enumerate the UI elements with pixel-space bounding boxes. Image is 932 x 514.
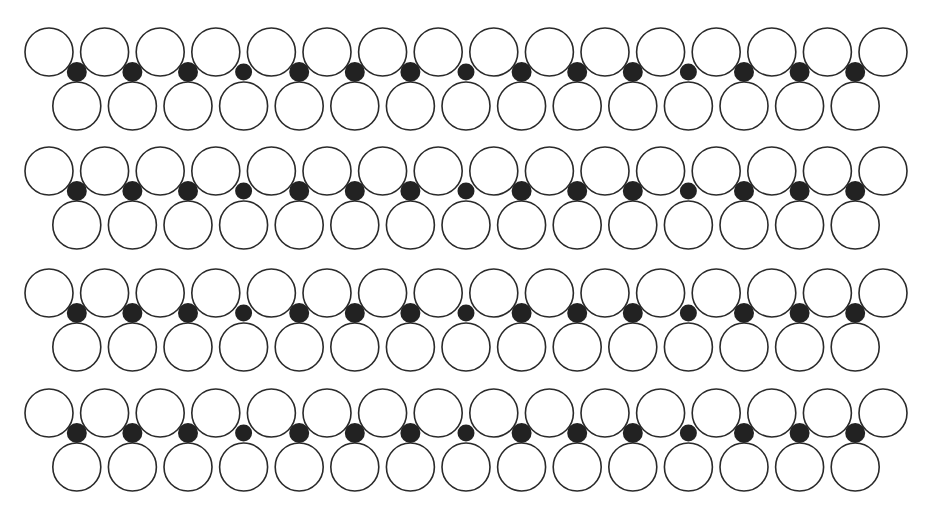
bottom-circle: [831, 201, 879, 249]
top-circle: [581, 389, 629, 437]
bottom-circle: [831, 323, 879, 371]
link-dot: [845, 303, 865, 323]
top-circle: [748, 269, 796, 317]
link-dot: [235, 305, 252, 322]
bottom-circle: [53, 82, 101, 130]
top-circle: [470, 147, 518, 195]
top-circle: [192, 389, 240, 437]
top-circle: [525, 147, 573, 195]
link-dot: [623, 423, 643, 443]
chain-diagram: [0, 0, 932, 514]
link-dot: [790, 303, 810, 323]
bottom-circle: [498, 443, 546, 491]
link-dot: [235, 183, 252, 200]
bottom-circle: [553, 82, 601, 130]
top-circle: [81, 269, 129, 317]
bottom-circle: [164, 82, 212, 130]
link-dot: [567, 423, 587, 443]
link-dot: [289, 423, 309, 443]
bottom-circle: [331, 443, 379, 491]
bottom-circle: [164, 201, 212, 249]
top-circle: [692, 147, 740, 195]
link-dot: [122, 181, 142, 201]
bottom-circle: [609, 323, 657, 371]
top-circle: [803, 389, 851, 437]
top-circle: [803, 269, 851, 317]
top-circle: [637, 269, 685, 317]
link-dot: [734, 303, 754, 323]
top-circle: [25, 28, 73, 76]
link-dot: [122, 303, 142, 323]
bottom-circle: [53, 201, 101, 249]
row-3: [25, 269, 907, 371]
link-dot: [235, 64, 252, 81]
bottom-circle: [442, 201, 490, 249]
top-circle: [637, 389, 685, 437]
link-dot: [680, 64, 697, 81]
link-dot: [790, 423, 810, 443]
bottom-circle: [498, 201, 546, 249]
top-circle: [136, 28, 184, 76]
link-dot: [623, 62, 643, 82]
link-dot: [458, 64, 475, 81]
bottom-circle: [442, 323, 490, 371]
top-circle: [859, 28, 907, 76]
bottom-circle: [275, 443, 323, 491]
top-circle: [748, 147, 796, 195]
link-dot: [67, 62, 87, 82]
link-dot: [845, 423, 865, 443]
link-dot: [400, 423, 420, 443]
top-circle: [192, 269, 240, 317]
row-1: [25, 28, 907, 130]
top-circle: [692, 269, 740, 317]
bottom-circle: [108, 201, 156, 249]
top-circle: [303, 28, 351, 76]
bottom-circle: [609, 82, 657, 130]
link-dot: [458, 183, 475, 200]
link-dot: [734, 423, 754, 443]
bottom-circle: [164, 443, 212, 491]
bottom-circle: [831, 443, 879, 491]
bottom-circle: [664, 82, 712, 130]
link-dot: [235, 425, 252, 442]
top-circle: [414, 28, 462, 76]
bottom-circle: [220, 201, 268, 249]
link-dot: [289, 62, 309, 82]
bottom-circle: [331, 323, 379, 371]
link-dot: [512, 303, 532, 323]
top-circle: [414, 147, 462, 195]
link-dot: [680, 183, 697, 200]
bottom-circle: [275, 82, 323, 130]
bottom-circle: [108, 82, 156, 130]
link-dot: [122, 62, 142, 82]
link-dot: [122, 423, 142, 443]
top-circle: [470, 28, 518, 76]
top-circle: [359, 389, 407, 437]
bottom-circle: [53, 323, 101, 371]
bottom-circle: [442, 82, 490, 130]
top-circle: [25, 269, 73, 317]
bottom-circle: [831, 82, 879, 130]
top-circle: [803, 28, 851, 76]
link-dot: [289, 303, 309, 323]
top-circle: [414, 389, 462, 437]
top-circle: [692, 28, 740, 76]
link-dot: [680, 305, 697, 322]
top-circle: [247, 389, 295, 437]
bottom-circle: [386, 201, 434, 249]
link-dot: [178, 423, 198, 443]
top-circle: [136, 147, 184, 195]
link-dot: [734, 62, 754, 82]
top-circle: [581, 147, 629, 195]
bottom-circle: [776, 443, 824, 491]
bottom-circle: [664, 443, 712, 491]
top-circle: [359, 147, 407, 195]
bottom-circle: [776, 323, 824, 371]
bottom-circle: [275, 201, 323, 249]
bottom-circle: [386, 323, 434, 371]
bottom-circle: [664, 201, 712, 249]
link-dot: [345, 303, 365, 323]
link-dot: [400, 303, 420, 323]
bottom-circle: [220, 82, 268, 130]
link-dot: [567, 62, 587, 82]
